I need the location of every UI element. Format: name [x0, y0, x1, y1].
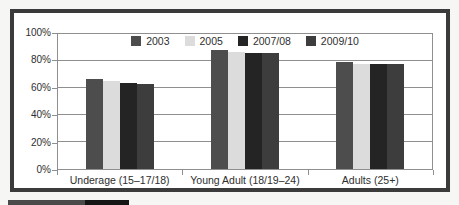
legend-swatch-icon: [238, 36, 248, 46]
caption-box-stub: [8, 200, 129, 205]
legend-swatch-icon: [306, 36, 316, 46]
y-tick-mark-40: [52, 115, 57, 116]
bar-2007-08-category-2: [370, 64, 387, 169]
x-tick-mark-1: [182, 170, 183, 175]
bar-2009-10-category-2: [387, 64, 404, 169]
plot-area: 200320052007/082009/10: [57, 33, 433, 170]
chart-frame: 200320052007/082009/10 Underage (15–17/1…: [10, 9, 450, 192]
y-tick-label-0: 0%: [15, 164, 51, 176]
bar-2005-category-1: [228, 52, 245, 169]
y-tick-label-100: 100%: [15, 27, 51, 39]
bar-2007-08-category-0: [120, 83, 137, 169]
bar-2005-category-2: [353, 64, 370, 169]
x-tick-mark-3: [433, 170, 434, 175]
bar-2009-10-category-0: [137, 84, 154, 169]
caption-stub-left-segment: [8, 200, 85, 205]
y-tick-label-60: 60%: [15, 82, 51, 94]
bar-2003-category-2: [336, 62, 353, 169]
x-label-0: Underage (15–17/18): [57, 174, 182, 186]
x-tick-mark-0: [57, 170, 58, 175]
legend-label: 2009/10: [321, 35, 359, 47]
y-tick-mark-80: [52, 60, 57, 61]
legend-item-2007-08: 2007/08: [238, 35, 291, 47]
y-tick-label-80: 80%: [15, 54, 51, 66]
legend-label: 2003: [146, 35, 169, 47]
legend-item-2005: 2005: [185, 35, 223, 47]
bar-2003-category-0: [86, 79, 103, 169]
y-tick-mark-60: [52, 88, 57, 89]
bar-group-2: [307, 34, 432, 169]
x-tick-mark-2: [308, 170, 309, 175]
bar-2003-category-1: [211, 50, 228, 169]
bar-2005-category-0: [103, 81, 120, 169]
caption-stub-right-segment: [85, 200, 129, 205]
bar-group-0: [58, 34, 183, 169]
y-tick-label-20: 20%: [15, 137, 51, 149]
x-label-1: Young Adult (18/19–24): [182, 174, 307, 186]
page: { "page": { "background": "#f6f6f4" }, "…: [0, 0, 459, 205]
y-tick-mark-20: [52, 143, 57, 144]
legend-label: 2007/08: [253, 35, 291, 47]
bar-2009-10-category-1: [262, 53, 279, 169]
bar-groups: [58, 34, 432, 169]
x-label-2: Adults (25+): [308, 174, 433, 186]
y-tick-label-40: 40%: [15, 109, 51, 121]
legend-item-2009-10: 2009/10: [306, 35, 359, 47]
chart-legend: 200320052007/082009/10: [58, 35, 432, 47]
legend-swatch-icon: [131, 36, 141, 46]
legend-label: 2005: [200, 35, 223, 47]
y-tick-mark-100: [52, 33, 57, 34]
legend-item-2003: 2003: [131, 35, 169, 47]
bar-2007-08-category-1: [245, 53, 262, 169]
legend-swatch-icon: [185, 36, 195, 46]
x-axis-labels: Underage (15–17/18)Young Adult (18/19–24…: [57, 174, 433, 186]
bar-group-1: [183, 34, 308, 169]
